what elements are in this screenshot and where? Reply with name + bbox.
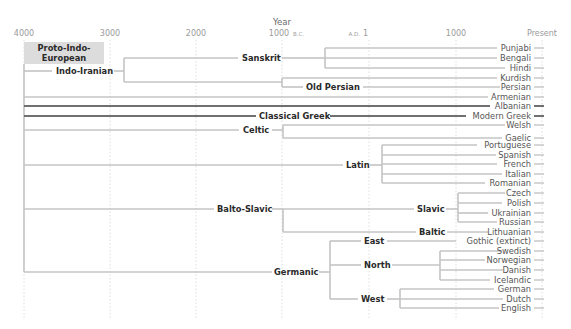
tick-ad1: 1: [363, 29, 368, 38]
tick-ad-prefix: A.D.: [349, 31, 361, 37]
branch-latin: Latin: [346, 160, 370, 170]
tick-1000bc: 1000: [269, 29, 289, 38]
branch-indo-iranian: Indo-Iranian: [56, 66, 113, 76]
branch-slavic: Slavic: [417, 204, 445, 214]
tick-3000: 3000: [100, 29, 120, 38]
lang-persian: Persian: [501, 82, 531, 92]
lang-welsh: Welsh: [506, 120, 531, 130]
time-axis: Year 4000 3000 2000 1000 B.C. A.D. 1 100…: [14, 17, 557, 38]
lang-albanian: Albanian: [495, 101, 531, 111]
branch-classical-greek: Classical Greek: [259, 111, 331, 121]
root-label-line2: European: [42, 53, 87, 63]
end-ticks-dark: [534, 106, 544, 116]
branch-north: North: [364, 260, 391, 270]
lang-bengali: Bengali: [500, 53, 531, 63]
tick-1000ad: 1000: [446, 29, 466, 38]
lang-polish: Polish: [507, 198, 531, 208]
lang-french: French: [503, 159, 531, 169]
root-label-line1: Proto-Indo-: [37, 43, 90, 53]
lang-norwegian: Norwegian: [487, 255, 532, 265]
tree-lines-dark: [24, 106, 490, 116]
branch-sanskrit: Sanskrit: [242, 53, 281, 63]
lang-czech: Czech: [506, 188, 531, 198]
branch-balto-slavic: Balto-Slavic: [217, 204, 273, 214]
lang-english: English: [501, 303, 531, 313]
branch-baltic: Baltic: [419, 227, 446, 237]
tick-bc-suffix: B.C.: [293, 31, 304, 37]
lang-romanian: Romanian: [489, 178, 531, 188]
tree-lines: [24, 48, 505, 308]
tick-4000: 4000: [14, 29, 34, 38]
lang-gothic: Gothic (extinct): [467, 236, 532, 246]
branch-labels: Indo-Iranian Sanskrit Old Persian Classi…: [56, 53, 446, 304]
lang-hindi: Hindi: [510, 63, 531, 73]
lang-portuguese: Portuguese: [484, 140, 531, 150]
branch-east: East: [364, 236, 384, 246]
branch-germanic: Germanic: [274, 267, 319, 277]
lang-german: German: [498, 284, 531, 294]
branch-old-persian: Old Persian: [306, 82, 360, 92]
language-family-tree: Year 4000 3000 2000 1000 B.C. A.D. 1 100…: [0, 0, 571, 329]
axis-title: Year: [272, 17, 292, 27]
end-ticks: [534, 48, 544, 308]
branch-celtic: Celtic: [243, 125, 269, 135]
lang-punjabi: Punjabi: [501, 43, 531, 53]
lang-danish: Danish: [502, 265, 531, 275]
branch-west: West: [361, 294, 384, 304]
tick-2000: 2000: [186, 29, 206, 38]
lang-russian: Russian: [499, 217, 531, 227]
tick-present: Present: [527, 29, 557, 38]
language-labels: Punjabi Bengali Hindi Kurdish Persian Ar…: [467, 43, 532, 313]
